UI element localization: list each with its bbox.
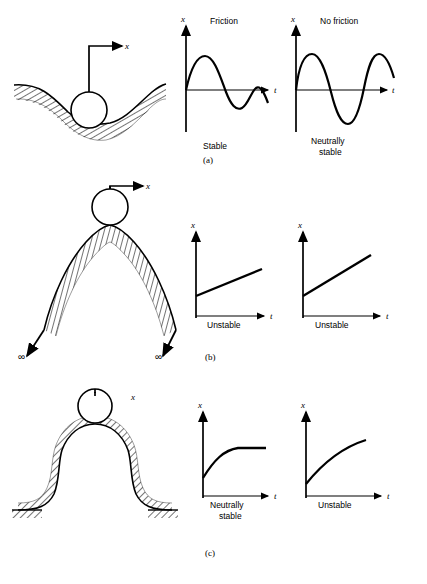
x-axis-label-c-left: t [274, 491, 277, 501]
y-axis-label-c-left: x [198, 400, 202, 410]
x-axis-label-a-nofriction: t [392, 85, 395, 95]
y-axis-label-a-friction: x [181, 14, 185, 24]
coordinate-label-b-x: x [146, 181, 150, 191]
caption-c-left-line2: stable [219, 511, 242, 521]
caption-c-left-line1: Neutrally [210, 500, 244, 510]
caption-a-nofriction-line1: Neutrally [311, 136, 345, 146]
saturating-rise-curve [203, 448, 266, 478]
caption-a-friction: Stable [203, 141, 227, 151]
stability-figure: x x Friction t Stable x No friction t Ne… [0, 0, 427, 584]
panel-label-a: (a) [203, 155, 213, 165]
infinity-label-left-b: ∞ [18, 352, 25, 362]
ball-b [92, 189, 128, 225]
graph-a-nofriction-axes [296, 26, 394, 132]
x-axis-label-a-friction: t [274, 85, 277, 95]
graph-c-right-axes [306, 412, 381, 498]
linear-growth-steep-curve [303, 255, 371, 296]
caption-c-right: Unstable [318, 500, 352, 510]
coordinate-label-a-x: x [125, 41, 129, 51]
infinity-label-right-b: ∞ [155, 352, 162, 362]
y-axis-label-a-nofriction: x [291, 14, 295, 24]
escape-arrow-left [27, 330, 44, 356]
heading-a-nofriction: No friction [320, 16, 358, 26]
x-axis-label-b-right: t [386, 311, 389, 321]
concave-rise-curve [306, 440, 366, 484]
y-axis-label-b-left: x [191, 220, 195, 230]
panel-label-b: (b) [205, 352, 216, 362]
y-axis-label-c-right: x [301, 400, 305, 410]
heading-a-friction: Friction [210, 16, 238, 26]
caption-b-right: Unstable [315, 320, 349, 330]
caption-b-left: Unstable [207, 320, 241, 330]
caption-a-nofriction-line2: stable [319, 147, 342, 157]
undamped-oscillation-curve [296, 54, 394, 124]
linear-growth-shallow-curve [196, 269, 262, 296]
panel-label-c: (c) [205, 548, 215, 558]
x-axis-label-c-right: t [387, 491, 390, 501]
coordinate-axes-a [89, 46, 122, 92]
damped-oscillation-curve [186, 56, 268, 109]
y-axis-label-b-right: x [298, 220, 302, 230]
coordinate-label-c-x: x [131, 392, 135, 402]
graph-b-left-axes [196, 232, 264, 318]
x-axis-label-b-left: t [270, 311, 273, 321]
mesa-surface-c [12, 416, 178, 518]
panel-a-graphics [0, 0, 427, 584]
graph-b-right-axes [303, 232, 380, 318]
coordinate-axes-b [110, 186, 143, 189]
dome-surface-b [27, 218, 184, 356]
graph-c-left-axes [203, 412, 268, 498]
ball-a [71, 92, 107, 128]
graph-a-friction-axes [186, 26, 268, 132]
